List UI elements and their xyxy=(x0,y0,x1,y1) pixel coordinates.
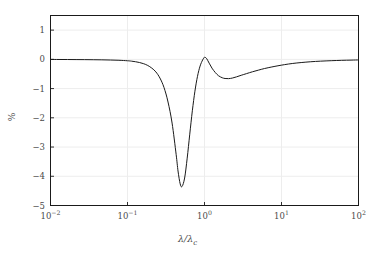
x-axis-label-text: λ/λc xyxy=(178,233,197,244)
x-tick-label: 101 xyxy=(274,212,289,221)
x-tick-label: 102 xyxy=(351,212,366,221)
x-tick-label: 10−2 xyxy=(41,212,61,221)
y-tick-label: −5 xyxy=(20,201,45,210)
chart-figure: 10−1−2−3−4−5 10−210−1100101102 % λ/λc xyxy=(0,0,375,258)
y-tick-label: 0 xyxy=(20,55,45,64)
x-tick-label: 100 xyxy=(197,212,212,221)
y-tick-label: 1 xyxy=(20,26,45,35)
y-tick-label: −1 xyxy=(20,84,45,93)
x-axis-label: λ/λc xyxy=(0,233,375,244)
x-tick-label: 10−1 xyxy=(118,212,138,221)
y-tick-label: −2 xyxy=(20,114,45,123)
y-axis-label: % xyxy=(7,113,17,122)
gridlines xyxy=(51,16,359,206)
y-tick-label: −4 xyxy=(20,172,45,181)
y-tick-label: −3 xyxy=(20,143,45,152)
